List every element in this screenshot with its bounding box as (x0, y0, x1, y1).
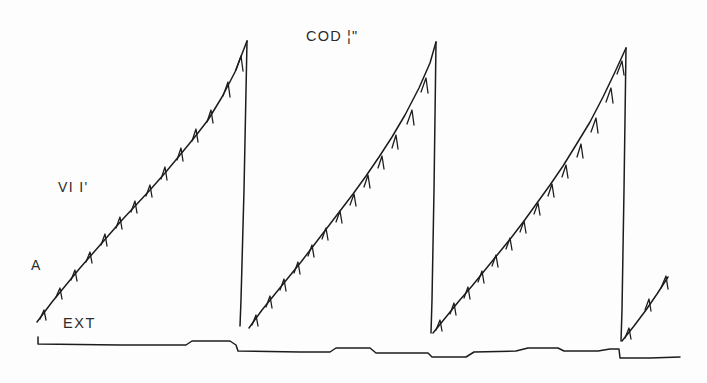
chart-recorder-figure: COD ¦" VI I' A EXT (0, 0, 707, 383)
figure-background (0, 0, 707, 383)
a-label: A (31, 258, 41, 272)
cod-label: COD ¦" (306, 29, 358, 44)
vi-label: VI I' (58, 180, 89, 194)
waveform-trace-svg (0, 0, 707, 383)
ext-label: EXT (63, 316, 96, 331)
